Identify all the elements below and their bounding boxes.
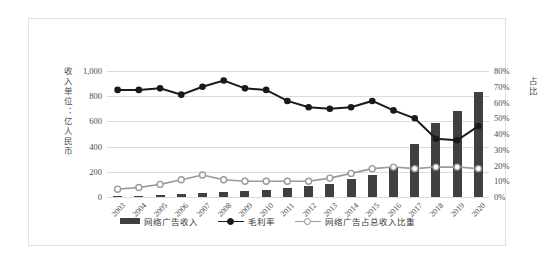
y-tick-label-right: 40% — [494, 129, 510, 139]
data-point — [284, 178, 290, 184]
chart-frame: 收入单位：亿人民币 占比 02004006008001,000 0%10%20%… — [28, 18, 506, 246]
data-point — [157, 181, 163, 187]
y-tick-label-right: 10% — [494, 176, 510, 186]
data-point — [285, 98, 290, 103]
data-point — [178, 177, 184, 183]
y-axis-title-left: 收入单位：亿人民币 — [61, 67, 73, 217]
line-path — [118, 167, 479, 189]
data-point — [370, 98, 375, 103]
plot-area: 02004006008001,000 0%10%20%30%40%50%60%7… — [107, 71, 489, 197]
y-tick-label: 400 — [89, 142, 102, 152]
data-point — [264, 87, 269, 92]
data-point — [306, 178, 312, 184]
data-point — [412, 116, 417, 121]
data-point — [221, 78, 226, 83]
data-point — [454, 164, 460, 170]
data-point — [327, 175, 333, 181]
legend-item-ad-share[interactable]: 网络广告占总收入比重 — [295, 215, 415, 227]
data-point — [412, 166, 418, 172]
legend-bar-swatch-icon — [120, 218, 140, 224]
legend-label-revenue: 网络广告收入 — [144, 215, 198, 227]
data-point — [306, 105, 311, 110]
line-path — [118, 80, 479, 140]
y-tick-label-right: 80% — [494, 66, 510, 76]
data-point — [200, 172, 206, 178]
legend-line-open-icon — [295, 217, 321, 226]
data-point — [476, 124, 481, 129]
data-point — [455, 138, 460, 143]
data-point — [242, 178, 248, 184]
y-tick-label: 0 — [98, 192, 102, 202]
legend-label-gross-margin: 毛利率 — [248, 215, 275, 227]
data-point — [433, 136, 438, 141]
y-tick-label-right: 0% — [494, 192, 505, 202]
data-point — [475, 166, 481, 172]
data-point — [348, 170, 354, 176]
y-tick-label: 600 — [89, 116, 102, 126]
legend-item-revenue[interactable]: 网络广告收入 — [120, 215, 198, 227]
data-point — [242, 86, 247, 91]
line-series — [107, 71, 489, 197]
data-point — [433, 164, 439, 170]
data-point — [157, 86, 162, 91]
y-tick-label-right: 60% — [494, 98, 510, 108]
y-axis-title-right: 占比 — [526, 77, 538, 137]
data-point — [263, 178, 269, 184]
data-point — [348, 105, 353, 110]
y-tick-label-right: 50% — [494, 113, 510, 123]
y-tick-label-right: 70% — [494, 82, 510, 92]
data-point — [221, 177, 227, 183]
data-point — [179, 92, 184, 97]
y-tick-label: 1,000 — [83, 66, 102, 76]
y-tick-label: 200 — [89, 167, 102, 177]
y-tick-label-right: 30% — [494, 145, 510, 155]
gridline — [107, 197, 489, 198]
legend-item-gross-margin[interactable]: 毛利率 — [218, 215, 275, 227]
data-point — [391, 164, 397, 170]
data-point — [327, 106, 332, 111]
chart-legend: 网络广告收入 毛利率 网络广告占总收入比重 — [29, 215, 505, 227]
data-point — [391, 108, 396, 113]
y-tick-label: 800 — [89, 91, 102, 101]
data-point — [115, 186, 121, 192]
y-tick-label-right: 20% — [494, 161, 510, 171]
data-point — [369, 166, 375, 172]
data-point — [136, 87, 141, 92]
legend-label-ad-share: 网络广告占总收入比重 — [325, 215, 415, 227]
legend-line-filled-icon — [218, 217, 244, 226]
data-point — [136, 185, 142, 191]
data-point — [200, 84, 205, 89]
data-point — [115, 87, 120, 92]
